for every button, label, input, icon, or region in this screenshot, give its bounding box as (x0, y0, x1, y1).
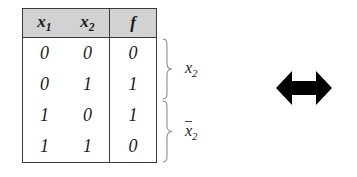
header-x2-var: x (80, 12, 89, 31)
cell-x2: 1 (66, 131, 110, 162)
header-x1-sub: 1 (46, 21, 52, 34)
brace-top-label-sub: 2 (192, 67, 197, 79)
truth-table-grid: x1 x2 f 0 0 0 0 1 1 1 0 (23, 9, 156, 162)
table-row: 1 0 1 (23, 100, 156, 131)
brace-bottom-label-sub: 2 (192, 130, 197, 142)
cell-f: 1 (110, 69, 157, 100)
header-f-var: f (130, 13, 136, 32)
cell-f: 1 (110, 100, 157, 131)
header-x1-var: x (37, 12, 46, 31)
curly-brace-right-icon (160, 38, 176, 100)
cell-x1: 1 (23, 131, 66, 162)
column-header-x1: x1 (23, 9, 66, 38)
brace-label-x2: x2 (185, 59, 198, 79)
double-headed-arrow-horizontal-icon (276, 66, 332, 110)
cell-f: 0 (110, 131, 157, 162)
cell-x2: 0 (66, 38, 110, 70)
brace-label-x2-complement: x2 (185, 121, 198, 142)
table-row: 0 1 1 (23, 69, 156, 100)
table-header-row: x1 x2 f (23, 9, 156, 38)
cell-x1: 0 (23, 38, 66, 70)
truth-table-header: x1 x2 f (23, 9, 156, 38)
cell-f: 0 (110, 38, 157, 70)
cell-x1: 1 (23, 100, 66, 131)
table-row: 1 1 0 (23, 131, 156, 162)
header-x2-sub: 2 (89, 21, 95, 34)
curly-brace-right-icon (160, 100, 176, 163)
cell-x2: 0 (66, 100, 110, 131)
truth-table-figure: x1 x2 f 0 0 0 0 1 1 1 0 (0, 0, 357, 177)
truth-table-body: 0 0 0 0 1 1 1 0 1 1 1 0 (23, 38, 156, 163)
column-header-x2: x2 (66, 9, 110, 38)
cell-x1: 0 (23, 69, 66, 100)
truth-table: x1 x2 f 0 0 0 0 1 1 1 0 (22, 8, 157, 163)
table-row: 0 0 0 (23, 38, 156, 70)
cell-x2: 1 (66, 69, 110, 100)
column-header-f: f (110, 9, 157, 38)
